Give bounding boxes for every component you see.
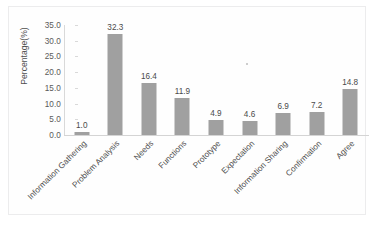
bar-slot: 4.9 — [199, 25, 233, 135]
bar[interactable] — [74, 132, 89, 135]
bar-value-label: 11.9 — [175, 87, 190, 96]
y-axis-tick-label: 0.0 — [27, 131, 61, 140]
bar-value-label: 16.4 — [141, 72, 157, 81]
y-axis-tick-label: 25.0 — [27, 52, 61, 61]
bar-slot: 6.9 — [266, 25, 300, 135]
bar-value-label: 14.8 — [342, 78, 358, 87]
y-axis-tick-label: 5.0 — [27, 115, 61, 124]
y-axis-tick-label: 10.0 — [27, 99, 61, 108]
bar[interactable] — [242, 121, 257, 135]
bar[interactable] — [309, 112, 324, 135]
chart-frame: Percentage(%) 0.05.010.015.020.025.030.0… — [8, 6, 366, 215]
y-axis-tick-label: 15.0 — [27, 83, 61, 92]
bar[interactable] — [276, 113, 291, 135]
bar-slot: 7.2 — [300, 25, 334, 135]
bar[interactable] — [108, 34, 123, 136]
bar-slot: 16.4 — [132, 25, 166, 135]
y-axis-tick-label: 20.0 — [27, 68, 61, 77]
bar[interactable] — [141, 83, 156, 135]
y-axis-tick-label: 30.0 — [27, 36, 61, 45]
bar-value-label: 4.9 — [210, 109, 221, 118]
bar-value-label: 6.9 — [277, 102, 288, 111]
x-axis-line — [64, 135, 369, 136]
plot-area: 1.032.316.411.94.94.66.97.214.8 — [65, 25, 367, 135]
bar-slot: 32.3 — [99, 25, 133, 135]
bar-slot: 14.8 — [333, 25, 367, 135]
y-axis-tick-label: 35.0 — [27, 21, 61, 30]
bar-slot: 1.0 — [65, 25, 99, 135]
bar[interactable] — [175, 98, 190, 135]
bar[interactable] — [343, 89, 358, 136]
bar-value-label: 32.3 — [107, 23, 123, 32]
bar-slot: 4.6 — [233, 25, 267, 135]
bar-value-label: 1.0 — [76, 121, 87, 130]
bar[interactable] — [208, 120, 223, 135]
bar-slot: 11.9 — [166, 25, 200, 135]
bar-value-label: 4.6 — [244, 110, 255, 119]
bar-value-label: 7.2 — [311, 101, 322, 110]
